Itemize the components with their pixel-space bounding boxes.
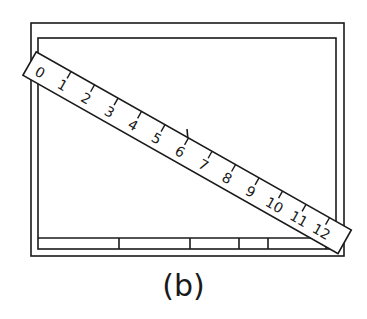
bottom-strip-dividers xyxy=(119,238,326,249)
figure-caption: (b) xyxy=(0,268,367,303)
ruler: 0 1 2 3 4 5 6 7 8 9 10 11 12 xyxy=(23,52,351,254)
